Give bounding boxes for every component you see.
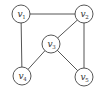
node-subscript: 2 — [85, 14, 89, 20]
node-v1: v1 — [12, 5, 30, 23]
nodes-group: v1v2v3v4v5 — [12, 5, 93, 86]
node-v3: v3 — [42, 35, 60, 53]
node-subscript: 4 — [23, 76, 27, 82]
node-subscript: 3 — [52, 44, 56, 50]
node-subscript: 1 — [22, 14, 26, 20]
node-v2: v2 — [75, 5, 93, 23]
node-v5: v5 — [75, 68, 93, 86]
graph-diagram: v1v2v3v4v5 — [0, 0, 101, 91]
node-subscript: 5 — [85, 77, 89, 83]
node-v4: v4 — [13, 67, 31, 85]
